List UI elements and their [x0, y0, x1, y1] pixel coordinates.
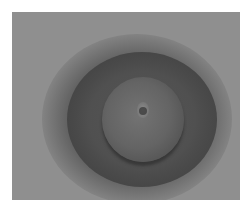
inner-disc — [102, 77, 184, 162]
grayscale-photo — [12, 12, 240, 200]
center-spot — [139, 107, 147, 115]
